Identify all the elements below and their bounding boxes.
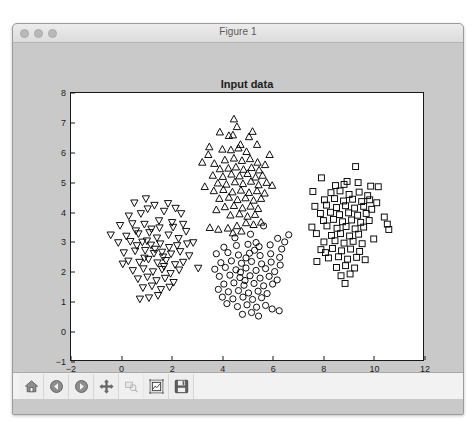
data-point bbox=[219, 146, 226, 153]
data-point bbox=[352, 265, 358, 271]
forward-button[interactable] bbox=[69, 374, 94, 399]
data-point bbox=[248, 309, 254, 315]
data-point bbox=[341, 240, 347, 246]
data-point bbox=[146, 230, 153, 237]
data-point bbox=[225, 249, 231, 255]
data-point bbox=[243, 148, 250, 155]
subplots-icon bbox=[149, 379, 164, 394]
data-point bbox=[248, 258, 254, 264]
x-tick-mark bbox=[425, 356, 426, 360]
pan-button[interactable] bbox=[94, 374, 119, 399]
data-point bbox=[119, 261, 126, 268]
data-point bbox=[233, 222, 240, 229]
data-point bbox=[225, 289, 231, 295]
x-tick-mark bbox=[222, 356, 223, 360]
y-tick-mark bbox=[71, 302, 75, 303]
data-point bbox=[154, 293, 161, 300]
data-point bbox=[245, 290, 251, 296]
data-point bbox=[282, 239, 288, 245]
data-point bbox=[176, 249, 183, 256]
data-point bbox=[249, 296, 255, 302]
plot-title: Input data bbox=[70, 78, 424, 90]
data-point bbox=[230, 296, 236, 302]
data-point bbox=[279, 246, 285, 252]
data-point bbox=[355, 180, 361, 186]
data-point bbox=[210, 187, 217, 194]
data-point bbox=[234, 196, 241, 203]
data-point bbox=[328, 209, 334, 215]
plot-axes[interactable]: −1012345678−2024681012 bbox=[70, 92, 424, 361]
data-point bbox=[263, 179, 270, 186]
data-point bbox=[219, 294, 225, 300]
data-point bbox=[183, 228, 190, 235]
data-point bbox=[343, 263, 349, 269]
y-tick-label: 1 bbox=[61, 297, 66, 307]
data-point bbox=[237, 141, 244, 148]
data-point bbox=[244, 302, 250, 308]
data-point bbox=[267, 242, 273, 248]
y-tick-mark bbox=[71, 93, 75, 94]
data-point bbox=[266, 151, 273, 158]
data-point bbox=[209, 172, 216, 179]
data-point bbox=[144, 274, 151, 281]
y-tick-mark bbox=[71, 242, 75, 243]
data-point bbox=[145, 295, 152, 302]
data-point bbox=[253, 267, 259, 273]
data-point bbox=[261, 189, 268, 196]
data-point bbox=[247, 231, 253, 237]
data-point bbox=[254, 159, 261, 166]
save-button[interactable] bbox=[169, 374, 194, 399]
data-point bbox=[330, 246, 336, 252]
data-point bbox=[310, 189, 316, 195]
data-point bbox=[363, 210, 369, 216]
data-point bbox=[233, 242, 239, 248]
y-tick-label: 2 bbox=[61, 267, 66, 277]
data-point bbox=[357, 248, 363, 254]
data-point bbox=[177, 211, 184, 218]
cluster-triangle-up bbox=[199, 115, 276, 236]
data-point bbox=[246, 155, 253, 162]
data-point bbox=[239, 311, 245, 317]
data-point bbox=[317, 210, 323, 216]
data-point bbox=[227, 146, 234, 153]
data-point bbox=[136, 259, 143, 266]
data-point bbox=[228, 258, 234, 264]
figure-canvas: Input data −1012345678−2024681012 bbox=[13, 43, 463, 391]
data-point bbox=[144, 206, 151, 213]
figure-window: Figure 1 Input data −1012345678−20246810… bbox=[12, 23, 464, 415]
y-tick-mark bbox=[71, 182, 75, 183]
data-point bbox=[127, 239, 134, 246]
data-point bbox=[179, 259, 186, 266]
data-point bbox=[160, 208, 167, 215]
data-point bbox=[277, 262, 283, 268]
data-point bbox=[253, 304, 259, 310]
home-button[interactable] bbox=[19, 374, 44, 399]
data-point bbox=[250, 221, 257, 228]
x-tick-mark bbox=[121, 356, 122, 360]
window-title: Figure 1 bbox=[13, 26, 463, 37]
data-point bbox=[213, 251, 219, 257]
window-titlebar[interactable]: Figure 1 bbox=[13, 24, 463, 43]
forward-arrow-icon bbox=[74, 379, 89, 394]
data-point bbox=[371, 236, 377, 242]
data-point bbox=[247, 273, 253, 279]
back-button[interactable] bbox=[44, 374, 69, 399]
data-point bbox=[229, 188, 236, 195]
data-point bbox=[368, 183, 374, 189]
data-point bbox=[230, 154, 237, 161]
data-point bbox=[286, 232, 292, 238]
configure-subplots-button[interactable] bbox=[144, 374, 169, 399]
data-point bbox=[243, 265, 249, 271]
data-point bbox=[260, 283, 266, 289]
data-point bbox=[251, 247, 257, 253]
data-point bbox=[309, 224, 315, 230]
data-point bbox=[170, 279, 177, 286]
data-point bbox=[238, 157, 245, 164]
data-point bbox=[225, 164, 232, 171]
data-point bbox=[244, 213, 251, 220]
data-point bbox=[140, 266, 147, 273]
data-point bbox=[142, 247, 149, 254]
y-tick-label: 6 bbox=[61, 148, 66, 158]
data-point bbox=[137, 211, 144, 218]
y-tick-label: 7 bbox=[61, 118, 66, 128]
